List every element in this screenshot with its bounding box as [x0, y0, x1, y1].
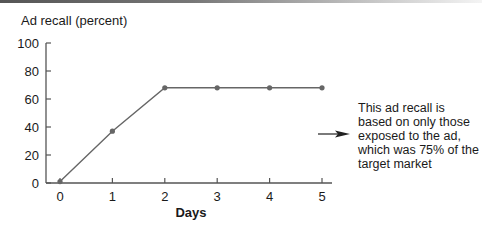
x-tick-label: 4 [266, 189, 273, 204]
line-chart: 020406080100012345Days [0, 0, 482, 228]
data-point [110, 129, 115, 134]
x-axis-title: Days [175, 205, 206, 220]
y-tick-label: 20 [25, 148, 39, 163]
data-point [319, 85, 324, 90]
x-tick-label: 1 [109, 189, 116, 204]
x-tick-label: 3 [214, 189, 221, 204]
data-point [215, 85, 220, 90]
y-tick-label: 0 [32, 176, 39, 191]
x-tick-label: 2 [161, 189, 168, 204]
y-tick-label: 40 [25, 120, 39, 135]
data-point [267, 85, 272, 90]
y-tick-label: 60 [25, 92, 39, 107]
y-tick-label: 80 [25, 64, 39, 79]
x-tick-label: 0 [56, 189, 63, 204]
data-point [162, 85, 167, 90]
x-tick-label: 5 [318, 189, 325, 204]
data-point [57, 179, 62, 184]
y-tick-label: 100 [17, 36, 39, 51]
data-line [60, 88, 322, 182]
